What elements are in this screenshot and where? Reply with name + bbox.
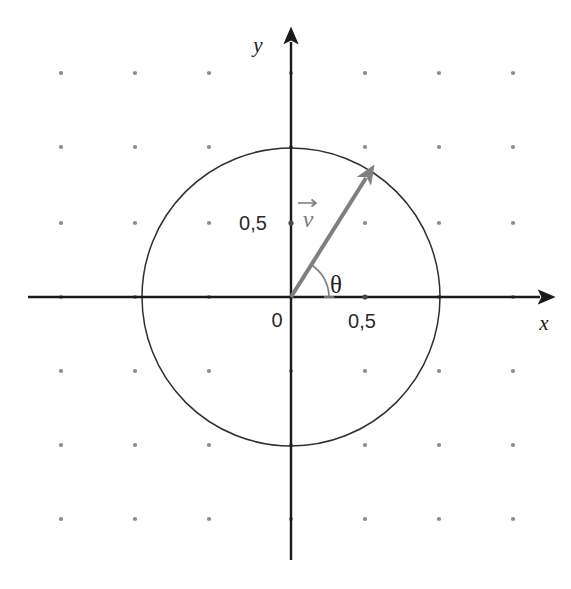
grid-dot (59, 71, 63, 75)
grid-dot (59, 145, 63, 149)
grid-dot (511, 145, 515, 149)
grid-dot (363, 517, 367, 521)
x-axis-tick-mark (362, 294, 367, 299)
grid-dot (511, 443, 515, 447)
unit-circle-diagram: y x 0 0,5 0,5 v θ (0, 0, 571, 589)
grid-dot (437, 443, 441, 447)
grid-dot (207, 145, 211, 149)
grid-dot (363, 369, 367, 373)
grid-dot (437, 71, 441, 75)
y-axis-label: y (251, 33, 263, 57)
grid-dot (363, 221, 367, 225)
y-axis-tick-label: 0,5 (239, 212, 267, 234)
grid-dot (511, 369, 515, 373)
grid-dot (59, 369, 63, 373)
grid-dot (207, 71, 211, 75)
grid-dot (437, 221, 441, 225)
grid-dot (207, 369, 211, 373)
grid-dot (133, 369, 137, 373)
figure-background (0, 0, 571, 589)
grid-dot (59, 517, 63, 521)
grid-dot (133, 145, 137, 149)
grid-dot (59, 221, 63, 225)
x-axis-tick-label: 0,5 (348, 310, 376, 332)
grid-dot (207, 443, 211, 447)
grid-dot (133, 71, 137, 75)
grid-dot (133, 443, 137, 447)
grid-dot (59, 443, 63, 447)
grid-dot (511, 517, 515, 521)
grid-dot (511, 221, 515, 225)
grid-dot (363, 443, 367, 447)
grid-dot (437, 369, 441, 373)
grid-dot (207, 221, 211, 225)
grid-dot (133, 517, 137, 521)
grid-dot (207, 517, 211, 521)
angle-label: θ (330, 271, 342, 298)
vector-label: v (303, 206, 314, 232)
grid-dot (133, 221, 137, 225)
unit-circle-figure: y x 0 0,5 0,5 v θ (0, 0, 571, 589)
x-axis-label: x (538, 311, 549, 335)
grid-dot (511, 71, 515, 75)
y-axis-tick-mark (288, 220, 293, 225)
origin-label: 0 (271, 309, 282, 331)
grid-dot (437, 517, 441, 521)
grid-dot (363, 145, 367, 149)
grid-dot (363, 71, 367, 75)
grid-dot (437, 145, 441, 149)
